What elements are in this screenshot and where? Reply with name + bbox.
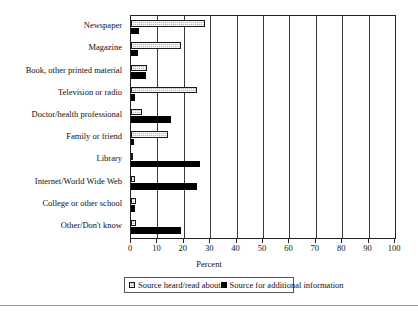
bar-additional-information xyxy=(131,50,138,57)
x-tick-label: 0 xyxy=(128,243,132,253)
legend-item-additional-information: Source for additional information xyxy=(221,280,344,290)
category-label: Doctor/health professional xyxy=(32,109,122,119)
bar-additional-information xyxy=(131,227,181,234)
bar-additional-information xyxy=(131,72,146,79)
x-axis: 0102030405060708090100 xyxy=(130,239,396,261)
bar-additional-information xyxy=(131,139,134,146)
hatched-square-icon xyxy=(129,282,135,288)
legend-label: Source heard/read about xyxy=(138,280,221,290)
bar-heard-read-about xyxy=(131,153,133,160)
bar-chart: NewspaperMagazineBook, other printed mat… xyxy=(0,0,418,313)
category-label: Television or radio xyxy=(58,87,122,97)
bar-heard-read-about xyxy=(131,65,147,72)
bar-heard-read-about xyxy=(131,87,197,94)
bar-additional-information xyxy=(131,94,135,101)
x-tick-label: 70 xyxy=(311,243,320,253)
x-tick-label: 90 xyxy=(363,243,372,253)
category-label: Book, other printed material xyxy=(26,65,122,75)
category-label: Internet/World Wide Web xyxy=(35,176,122,186)
bar-heard-read-about xyxy=(131,20,205,27)
x-tick-label: 30 xyxy=(205,243,214,253)
x-tick-label: 10 xyxy=(152,243,161,253)
x-axis-title: Percent xyxy=(0,259,418,269)
legend-label: Source for additional information xyxy=(230,280,344,290)
category-label: Newspaper xyxy=(84,20,122,30)
category-axis-labels: NewspaperMagazineBook, other printed mat… xyxy=(0,15,126,239)
bars-layer xyxy=(131,16,395,238)
page-divider xyxy=(0,305,418,306)
x-tick-label: 80 xyxy=(337,243,346,253)
bar-heard-read-about xyxy=(131,198,136,205)
x-tick-label: 40 xyxy=(231,243,240,253)
category-label: Library xyxy=(97,153,123,163)
x-tick-label: 100 xyxy=(388,243,401,253)
bar-heard-read-about xyxy=(131,42,181,49)
legend-item-heard-read-about: Source heard/read about xyxy=(129,280,221,290)
bar-heard-read-about xyxy=(131,131,168,138)
bar-heard-read-about xyxy=(131,109,142,116)
filled-square-icon xyxy=(221,282,227,288)
category-label: Other/Don't know xyxy=(61,220,122,230)
x-tick-label: 20 xyxy=(179,243,188,253)
category-label: College or other school xyxy=(42,198,122,208)
bar-additional-information xyxy=(131,116,171,123)
legend: Source heard/read about Source for addit… xyxy=(124,277,294,293)
bar-additional-information xyxy=(131,161,200,168)
bar-heard-read-about xyxy=(131,220,136,227)
bar-additional-information xyxy=(131,28,139,35)
bar-additional-information xyxy=(131,183,197,190)
bar-additional-information xyxy=(131,205,135,212)
category-label: Family or friend xyxy=(66,131,122,141)
bar-heard-read-about xyxy=(131,176,135,183)
x-tick-label: 60 xyxy=(284,243,293,253)
x-tick-label: 50 xyxy=(258,243,267,253)
category-label: Magazine xyxy=(88,42,122,52)
